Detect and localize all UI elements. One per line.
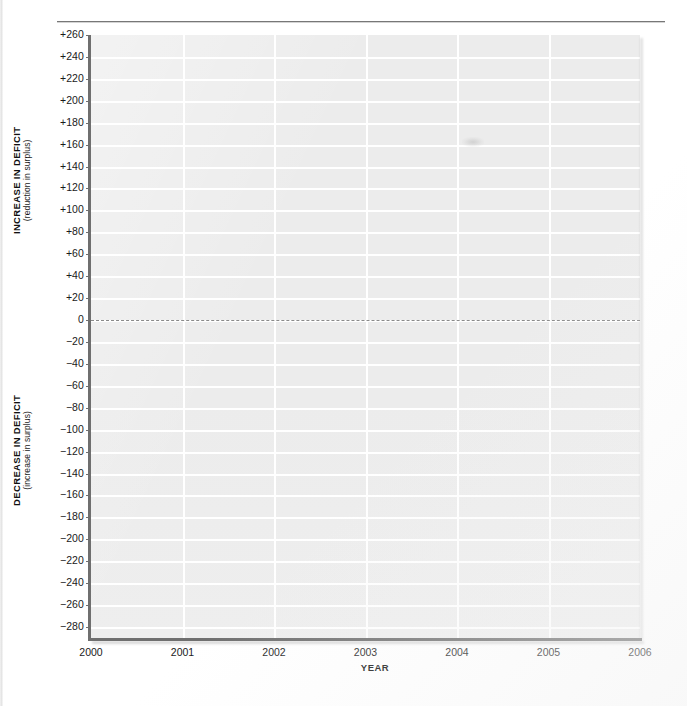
y-tick-label: +20 [44,291,84,303]
y-tick-label: −180 [44,510,84,522]
y-tick-label: −100 [44,423,84,435]
y-tick-label: −140 [44,467,84,479]
y-tick-mark [86,298,90,299]
y-tick-mark [86,452,90,453]
y-tick-mark [86,145,90,146]
y-tick-label: +240 [44,50,84,62]
y-tick-label: −120 [44,445,84,457]
grid-line-vertical [274,35,276,638]
plot-area [91,35,640,638]
y-tick-mark [86,495,90,496]
y-tick-mark [86,276,90,277]
x-tick-label: 2003 [336,646,396,658]
y-axis-line [88,35,91,641]
y-tick-label: +200 [44,94,84,106]
x-axis-line [88,638,642,641]
chart-figure: +260+240+220+200+180+160+140+120+100+80+… [0,0,687,706]
y-tick-mark [86,627,90,628]
y-tick-label: −60 [44,379,84,391]
y-tick-mark [86,35,90,36]
x-tick-label: 2001 [153,646,213,658]
y-tick-mark [86,364,90,365]
y-axis-label-lower: DECREASE IN DEFICIT (increase in surplus… [0,390,46,510]
y-axis-label-lower-sub: (increase in surplus) [24,394,34,505]
y-tick-mark [86,583,90,584]
grid-line-vertical [549,35,551,638]
y-tick-mark [86,79,90,80]
y-tick-label: +40 [44,269,84,281]
y-tick-mark [86,474,90,475]
x-tick-label: 2005 [519,646,579,658]
y-tick-label: +80 [44,225,84,237]
grid-line-vertical [183,35,185,638]
plot-shadow-right [640,38,643,640]
y-tick-label: −80 [44,401,84,413]
y-tick-mark [86,57,90,58]
y-tick-label: −240 [44,576,84,588]
y-tick-mark [86,561,90,562]
y-tick-mark [86,101,90,102]
x-tick-label: 2002 [244,646,304,658]
y-tick-mark [86,123,90,124]
y-tick-mark [86,210,90,211]
y-tick-mark [86,254,90,255]
y-axis-label-upper-sub: (reduction in surplus) [24,126,34,233]
y-tick-mark [86,386,90,387]
y-tick-label: −200 [44,532,84,544]
y-tick-label: +60 [44,247,84,259]
x-axis-title: YEAR [335,662,415,673]
y-tick-mark [86,517,90,518]
grid-line-vertical [457,35,459,638]
y-tick-label: +100 [44,203,84,215]
zero-reference-line [91,320,640,321]
y-tick-mark [86,605,90,606]
y-tick-label: −160 [44,488,84,500]
y-tick-label: −20 [44,335,84,347]
x-tick-label: 2006 [610,646,670,658]
y-tick-mark [86,430,90,431]
y-tick-label: −40 [44,357,84,369]
y-tick-label: −260 [44,598,84,610]
x-tick-label: 2000 [61,646,121,658]
plot-shadow-bottom [92,641,644,644]
x-tick-label: 2004 [427,646,487,658]
y-tick-label: +160 [44,138,84,150]
grid-line-vertical [366,35,368,638]
y-tick-label: 0 [44,313,84,325]
y-tick-label: +180 [44,116,84,128]
y-tick-mark [86,342,90,343]
y-tick-label: −280 [44,620,84,632]
y-tick-mark [86,320,90,321]
y-tick-mark [86,188,90,189]
y-tick-mark [86,408,90,409]
y-tick-label: +220 [44,72,84,84]
y-tick-mark [86,232,90,233]
y-tick-label: +260 [44,28,84,40]
y-tick-label: −220 [44,554,84,566]
y-tick-label: +140 [44,160,84,172]
y-axis-label-upper: INCREASE IN DEFICIT (reduction in surplu… [0,120,46,240]
y-tick-label: +120 [44,181,84,193]
y-tick-mark [86,539,90,540]
y-tick-mark [86,167,90,168]
